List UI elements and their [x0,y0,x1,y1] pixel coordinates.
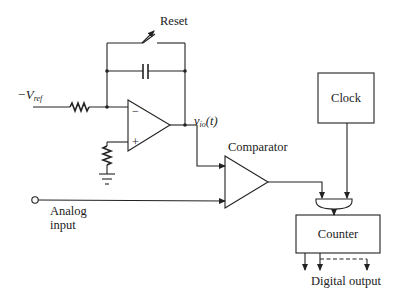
digital-output-label: Digital output [311,274,381,288]
junction-cap-right [183,69,187,73]
reset-label: Reset [160,14,188,28]
integrating-capacitor [107,64,185,79]
comparator-to-gate-wire [268,182,322,198]
analog-input-wire [38,200,225,201]
input-resistor [33,103,128,111]
opamp-plus-sign: + [132,135,139,149]
junction-cap-left [105,69,109,73]
integrator-to-comparator-wire [197,125,225,166]
vref-label: −Vref [17,87,44,103]
comparator-label: Comparator [228,140,289,154]
digital-output-bus [305,253,367,270]
opamp-minus-sign: − [132,104,139,118]
counter-label: Counter [318,227,359,241]
comparator [225,156,268,208]
analog-input-label-line1: Analog [50,204,88,218]
and-gate [316,199,352,209]
clock-label: Clock [331,91,362,105]
junction-opamp-output [183,123,187,127]
ground-resistor [103,142,128,174]
adc-circuit-diagram: −Vref Reset − + [0,0,400,297]
analog-input-label-line2: input [50,218,76,232]
ground-icon [99,174,115,184]
analog-input-terminal[interactable] [32,197,38,203]
